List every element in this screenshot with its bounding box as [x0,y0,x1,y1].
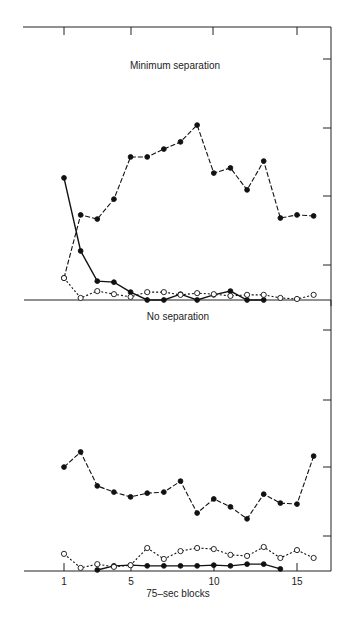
data-point [195,123,200,128]
bottom-panel-title: No separation [147,311,209,322]
data-point [261,492,266,497]
svg-text:5: 5 [128,576,134,587]
data-point [294,296,299,301]
top-panel-title: Minimum separation [130,60,220,71]
data-point [95,568,100,573]
data-point [228,289,233,294]
data-point [228,293,233,298]
data-point [62,465,67,470]
chart: Minimum separation No separation 1 5 10 … [0,0,347,625]
series-line [64,452,314,519]
data-point [311,454,316,459]
data-point [161,290,166,295]
data-point [211,546,216,551]
right-axis-ticks [323,59,331,536]
data-point [178,563,183,568]
data-point [211,171,216,176]
data-point [111,564,116,569]
data-point [78,565,83,570]
data-point [78,450,83,455]
data-point [195,511,200,516]
data-point [161,556,166,561]
data-point [78,213,83,218]
data-point [278,295,283,300]
data-point [95,562,100,567]
data-point [195,545,200,550]
data-point [128,155,133,160]
data-point [62,175,67,180]
data-point [78,295,83,300]
data-point [311,292,316,297]
data-point [112,490,117,495]
data-point [278,555,283,560]
data-point [178,292,183,297]
data-point [145,155,150,160]
data-point [228,563,233,568]
data-point [244,292,249,297]
data-point [112,197,117,202]
svg-text:15: 15 [291,576,303,587]
top-panel-plot [61,123,316,303]
data-point [161,490,166,495]
data-point [145,298,150,303]
series-line [64,178,264,300]
data-point [211,497,216,502]
data-point [245,187,250,192]
data-point [245,562,250,567]
series-line [64,125,314,278]
data-point [295,213,300,218]
data-point [261,544,266,549]
data-point [161,298,166,303]
data-point [228,504,233,509]
data-point [128,495,133,500]
svg-text:1: 1 [61,576,67,587]
data-point [112,280,117,285]
top-border-ticks [64,27,297,35]
data-point [145,290,150,295]
data-point [278,567,283,572]
data-point [128,563,133,568]
data-point [95,484,100,489]
data-point [245,298,250,303]
data-point [178,479,183,484]
data-point [111,292,116,297]
data-point [128,290,133,295]
data-point [261,292,266,297]
data-point [278,501,283,506]
data-point [61,551,66,556]
data-point [161,147,166,152]
data-point [211,563,216,568]
data-point [261,159,266,164]
data-point [295,502,300,507]
data-point [95,217,100,222]
data-point [228,166,233,171]
data-point [261,562,266,567]
data-point [278,216,283,221]
data-point [195,291,200,296]
data-point [245,516,250,521]
data-point [294,547,299,552]
data-point [95,288,100,293]
data-point [128,294,133,299]
data-point [161,563,166,568]
bottom-panel-plot [61,450,316,573]
data-point [178,139,183,144]
data-point [145,545,150,550]
data-point [78,249,83,254]
data-point [61,275,66,280]
data-point [178,549,183,554]
data-point [311,214,316,219]
data-point [195,298,200,303]
data-point [311,555,316,560]
data-point [211,292,216,297]
data-point [95,279,100,284]
data-point [244,553,249,558]
data-point [195,563,200,568]
series-line [97,564,280,570]
data-point [145,563,150,568]
x-tick-labels: 1 5 10 15 [61,576,303,587]
x-axis-label: 75–sec blocks [146,588,209,599]
data-point [228,552,233,557]
data-point [145,491,150,496]
data-point [261,298,266,303]
